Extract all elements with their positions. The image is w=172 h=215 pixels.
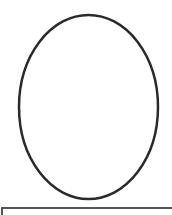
bottom-panel [1, 207, 172, 215]
drawing-canvas [0, 0, 172, 215]
ellipse-shape[interactable] [19, 15, 158, 199]
ellipse-shape-layer [0, 0, 172, 215]
